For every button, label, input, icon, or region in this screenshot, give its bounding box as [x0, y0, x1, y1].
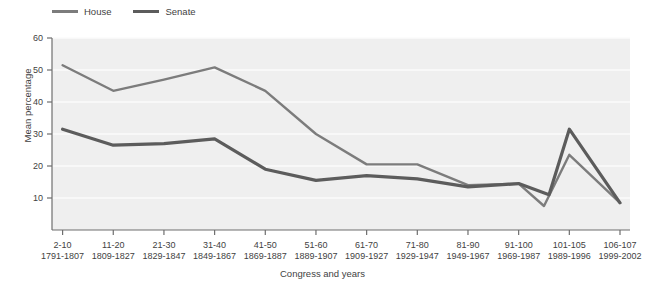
y-tick-label: 20: [33, 161, 43, 171]
x-tick-label: 1849-1867: [193, 251, 236, 261]
x-tick-label: 61-70: [355, 240, 378, 250]
x-tick-label: 11-20: [102, 240, 124, 250]
x-tick-label: 31-40: [203, 240, 226, 250]
x-tick-label: 101-105: [553, 240, 586, 250]
x-axis-ticks: 2-101791-180711-201809-182721-301829-184…: [41, 230, 641, 261]
line-chart-plot: 102030405060 2-101791-180711-201809-1827…: [0, 0, 645, 295]
y-tick-label: 30: [33, 129, 43, 139]
x-tick-label: 1809-1827: [92, 251, 135, 261]
x-tick-label: 91-100: [505, 240, 533, 250]
x-tick-label: 71-80: [406, 240, 429, 250]
x-tick-label: 41-50: [254, 240, 277, 250]
x-tick-label: 1869-1887: [244, 251, 287, 261]
figure-container: House Senate Mean percentage Congress an…: [0, 0, 645, 295]
x-tick-label: 1829-1847: [142, 251, 185, 261]
x-tick-label: 1969-1987: [497, 251, 540, 261]
x-tick-label: 1929-1947: [396, 251, 439, 261]
x-tick-label: 1889-1907: [294, 251, 337, 261]
x-tick-label: 81-90: [456, 240, 479, 250]
y-tick-label: 60: [33, 33, 43, 43]
y-tick-label: 10: [33, 193, 43, 203]
y-tick-label: 50: [33, 65, 43, 75]
x-tick-label: 1989-1996: [548, 251, 591, 261]
x-tick-label: 51-60: [304, 240, 327, 250]
x-tick-label: 1999-2002: [598, 251, 641, 261]
x-tick-label: 1909-1927: [345, 251, 388, 261]
x-tick-label: 106-107: [603, 240, 636, 250]
x-tick-label: 1949-1967: [446, 251, 489, 261]
x-tick-label: 2-10: [54, 240, 72, 250]
x-tick-label: 21-30: [152, 240, 175, 250]
x-tick-label: 1791-1807: [41, 251, 84, 261]
y-axis-ticks: 102030405060: [33, 33, 52, 203]
y-tick-label: 40: [33, 97, 43, 107]
